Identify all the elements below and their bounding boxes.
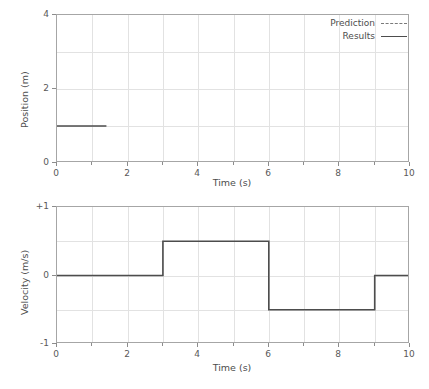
- x-tick-major: [56, 343, 57, 347]
- y-tick-label: 4: [22, 10, 49, 19]
- y-tick-major: [52, 275, 56, 276]
- x-tick-minor: [91, 162, 92, 165]
- x-tick-major: [409, 162, 410, 166]
- legend-position: Prediction Results: [295, 16, 407, 42]
- x-tick-major: [127, 343, 128, 347]
- x-tick-label: 8: [335, 350, 341, 359]
- series-layer-velocity: [57, 207, 409, 343]
- y-tick-label: +1: [22, 202, 49, 211]
- x-tick-major: [56, 162, 57, 166]
- x-axis-title-position: Time (s): [213, 178, 252, 188]
- x-tick-minor: [374, 162, 375, 165]
- y-tick-major: [52, 162, 56, 163]
- legend-swatch-dashed-line: [381, 19, 407, 27]
- x-tick-label: 10: [403, 350, 414, 359]
- x-tick-minor: [91, 343, 92, 346]
- x-tick-major: [338, 162, 339, 166]
- x-tick-major: [409, 343, 410, 347]
- x-tick-minor: [233, 343, 234, 346]
- x-tick-label: 4: [194, 350, 200, 359]
- x-axis-title-velocity: Time (s): [213, 363, 252, 373]
- x-tick-minor: [233, 162, 234, 165]
- legend-entry-prediction: Prediction: [295, 16, 407, 29]
- y-tick-major: [52, 88, 56, 89]
- x-tick-label: 0: [53, 169, 59, 178]
- y-tick-major: [52, 343, 56, 344]
- legend-label-results: Results: [343, 31, 376, 41]
- x-tick-label: 0: [53, 350, 59, 359]
- y-tick-label: 2: [22, 84, 49, 93]
- x-tick-label: 4: [194, 169, 200, 178]
- x-tick-minor: [303, 162, 304, 165]
- chart-panel-velocity: Velocity (m/s) Time (s) 0246810-10+1: [0, 195, 429, 389]
- x-tick-minor: [374, 343, 375, 346]
- y-axis-title-position: Position (m): [20, 71, 30, 128]
- x-tick-major: [338, 343, 339, 347]
- x-tick-minor: [303, 343, 304, 346]
- legend-swatch-solid-line: [381, 32, 407, 40]
- legend-label-prediction: Prediction: [330, 18, 375, 28]
- data-series-line: [57, 241, 409, 310]
- x-tick-major: [197, 343, 198, 347]
- x-tick-minor: [162, 162, 163, 165]
- y-tick-label: 0: [22, 158, 49, 167]
- x-tick-label: 2: [124, 169, 130, 178]
- legend-entry-results: Results: [295, 29, 407, 42]
- plot-area-velocity: [56, 206, 409, 343]
- x-tick-label: 6: [265, 169, 271, 178]
- y-axis-title-velocity: Velocity (m/s): [20, 250, 30, 315]
- x-tick-minor: [162, 343, 163, 346]
- y-tick-label: -1: [22, 339, 49, 348]
- figure-container: Position (m) Time (s) 0246810024 Predict…: [0, 0, 429, 389]
- chart-panel-position: Position (m) Time (s) 0246810024 Predict…: [0, 0, 429, 195]
- x-tick-label: 2: [124, 350, 130, 359]
- y-tick-major: [52, 14, 56, 15]
- x-tick-major: [127, 162, 128, 166]
- y-tick-label: 0: [22, 271, 49, 280]
- x-tick-major: [268, 162, 269, 166]
- x-tick-label: 10: [403, 169, 414, 178]
- y-tick-major: [52, 206, 56, 207]
- x-tick-label: 6: [265, 350, 271, 359]
- x-tick-major: [197, 162, 198, 166]
- x-tick-major: [268, 343, 269, 347]
- x-tick-label: 8: [335, 169, 341, 178]
